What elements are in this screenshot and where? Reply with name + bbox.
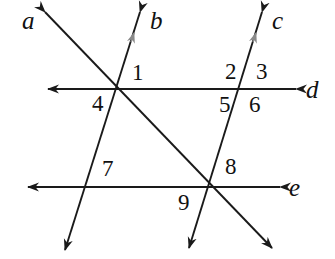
diagram-canvas: [0, 0, 335, 259]
line-label-b: b: [150, 8, 163, 33]
geometry-diagram: a b c d e 1 2 3 4 5 6 7 8 9: [0, 0, 335, 259]
angle-label-6: 6: [249, 93, 261, 116]
angle-label-3: 3: [256, 60, 268, 83]
line-label-c: c: [272, 8, 283, 33]
angle-label-5: 5: [219, 93, 231, 116]
angle-label-2: 2: [225, 60, 237, 83]
line-label-d: d: [306, 77, 319, 102]
angle-label-9: 9: [178, 191, 190, 214]
angle-label-1: 1: [132, 61, 144, 84]
line-b: [65, 12, 140, 250]
line-a: [45, 12, 272, 248]
line-label-e: e: [289, 175, 300, 200]
angle-label-8: 8: [225, 155, 237, 178]
line-c: [189, 12, 262, 248]
angle-label-4: 4: [92, 92, 104, 115]
line-label-a: a: [22, 8, 35, 33]
angle-label-7: 7: [102, 157, 114, 180]
